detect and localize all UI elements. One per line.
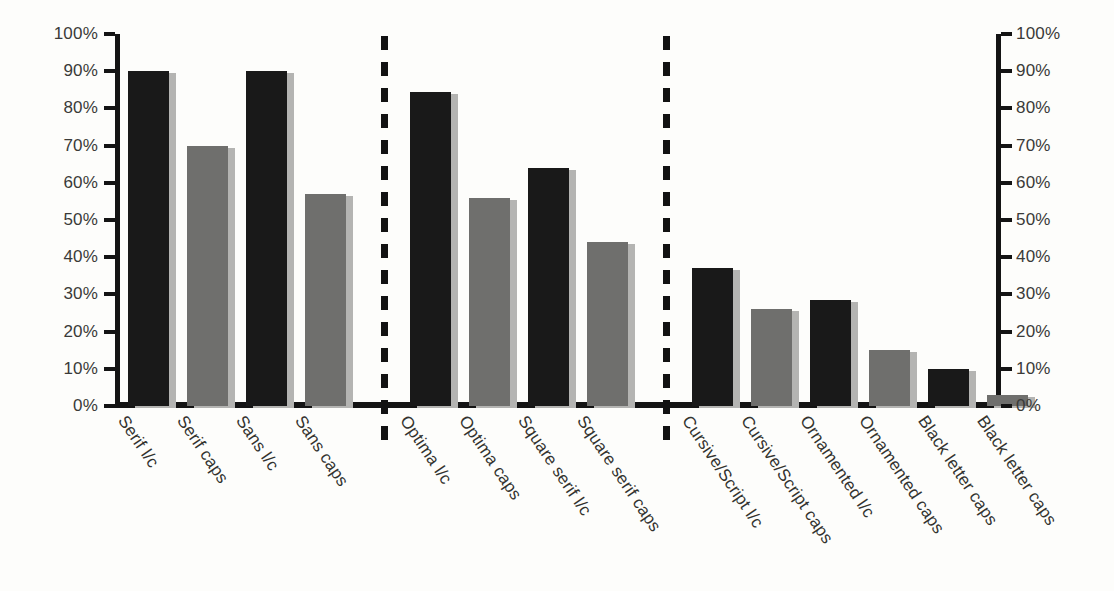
y-axis-label-right: 80%	[1016, 99, 1051, 116]
x-axis-category-label: Sans l/c	[231, 412, 282, 475]
y-axis-label-right: 0%	[1016, 397, 1041, 414]
bar	[869, 346, 922, 406]
y-axis-label-right: 60%	[1016, 174, 1051, 191]
y-axis-tick-left	[104, 181, 115, 185]
bar	[751, 305, 804, 406]
y-axis-tick-right	[1001, 181, 1012, 185]
bar-body	[692, 268, 733, 406]
x-axis-category-label: Square serif caps	[572, 412, 664, 536]
bar	[528, 164, 581, 406]
bar	[692, 264, 745, 406]
y-axis-tick-left	[104, 106, 115, 110]
bar	[410, 88, 463, 406]
bar	[187, 142, 240, 406]
y-axis-label-left: 70%	[63, 137, 98, 154]
divider-1	[381, 36, 388, 446]
y-axis-tick-right	[1001, 367, 1012, 371]
bar-body	[187, 146, 228, 406]
y-axis-tick-left	[104, 330, 115, 334]
y-axis-label-left: 30%	[63, 285, 98, 302]
y-axis-tick-left	[104, 218, 115, 222]
y-axis-label-left: 50%	[63, 211, 98, 228]
bar	[128, 67, 181, 406]
y-axis-label-right: 40%	[1016, 248, 1051, 265]
y-axis-label-right: 90%	[1016, 62, 1051, 79]
y-axis-tick-right	[1001, 330, 1012, 334]
y-axis-tick-left	[104, 144, 115, 148]
y-axis-tick-left	[104, 69, 115, 73]
y-axis-label-left: 90%	[63, 62, 98, 79]
divider-2	[663, 36, 670, 446]
bar	[587, 238, 640, 406]
y-axis-label-right: 100%	[1016, 25, 1060, 42]
bar-body	[246, 71, 287, 406]
y-axis-tick-left	[104, 292, 115, 296]
bar	[928, 365, 981, 406]
bar	[246, 67, 299, 406]
y-axis-label-left: 100%	[54, 25, 98, 42]
bar	[810, 296, 863, 406]
bar-body	[528, 168, 569, 406]
y-axis-label-right: 70%	[1016, 137, 1051, 154]
plot-area	[120, 34, 996, 406]
y-axis-tick-left	[104, 32, 115, 36]
y-axis-tick-right	[1001, 404, 1012, 408]
x-axis-category-label: Sans caps	[290, 412, 352, 490]
y-axis-label-left: 0%	[73, 397, 98, 414]
bar-body	[869, 350, 910, 406]
y-axis-tick-right	[1001, 106, 1012, 110]
bar	[305, 190, 358, 406]
bar-body	[128, 71, 169, 406]
bar-body	[810, 300, 851, 406]
bar	[469, 194, 522, 406]
y-axis-tick-right	[1001, 69, 1012, 73]
y-axis-label-right: 50%	[1016, 211, 1051, 228]
y-axis-tick-left	[104, 404, 115, 408]
y-axis-tick-right	[1001, 144, 1012, 148]
y-axis-tick-right	[1001, 255, 1012, 259]
bar-body	[928, 369, 969, 406]
y-axis-label-right: 30%	[1016, 285, 1051, 302]
y-axis-label-left: 20%	[63, 323, 98, 340]
y-axis-tick-right	[1001, 218, 1012, 222]
y-axis-label-right: 10%	[1016, 360, 1051, 377]
bar-body	[410, 92, 451, 406]
y-axis-tick-right	[1001, 32, 1012, 36]
bar-body	[305, 194, 346, 406]
y-axis-tick-right	[1001, 292, 1012, 296]
bar-chart: 100%100%90%90%80%80%70%70%60%60%50%50%40…	[0, 0, 1114, 591]
y-axis-label-left: 60%	[63, 174, 98, 191]
bar-body	[469, 198, 510, 406]
y-axis-tick-left	[104, 255, 115, 259]
bar-body	[587, 242, 628, 406]
x-axis-category-label: Optima l/c	[395, 412, 455, 488]
y-axis-label-left: 80%	[63, 99, 98, 116]
x-axis-category-label: Serif caps	[172, 412, 232, 488]
bar-body	[751, 309, 792, 406]
y-axis-label-left: 10%	[63, 360, 98, 377]
y-axis-label-left: 40%	[63, 248, 98, 265]
y-axis-tick-left	[104, 367, 115, 371]
x-axis-category-label: Serif l/c	[113, 412, 162, 472]
y-axis-label-right: 20%	[1016, 323, 1051, 340]
